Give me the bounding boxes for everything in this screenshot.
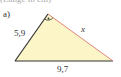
base-label: 9,7 <box>57 65 68 74</box>
left-side-label: 5,9 <box>14 29 25 38</box>
hypotenuse-label: x <box>81 25 85 34</box>
triangle-fill <box>15 14 113 61</box>
part-label: a) <box>3 10 10 19</box>
right-angle-dot <box>48 18 50 20</box>
